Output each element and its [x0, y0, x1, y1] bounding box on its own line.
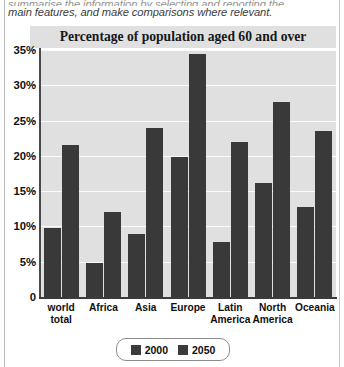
bar-2050 [62, 145, 79, 297]
x-axis-category-label: Oceania [294, 302, 336, 314]
y-axis-tick-mark [31, 156, 36, 157]
x-axis-category-label: Latin America [209, 302, 251, 325]
legend-label: 2050 [192, 344, 215, 356]
chart-bars [40, 50, 336, 297]
bar-group [44, 50, 79, 297]
y-axis-line [39, 48, 41, 299]
legend-item-2000: 2000 [131, 344, 168, 356]
bar-2000 [213, 242, 230, 297]
x-axis-category-label: world total [40, 302, 82, 325]
chart-legend: 2000 2050 [116, 338, 230, 361]
x-axis-category-label: Africa [82, 302, 124, 314]
y-axis-tick-mark [31, 85, 36, 86]
bar-2000 [255, 183, 272, 297]
legend-swatch-icon [178, 345, 188, 355]
x-axis-category-label: North America [251, 302, 293, 325]
bar-2000 [128, 234, 145, 298]
bar-2050 [189, 54, 206, 297]
bar-chart-figure: Percentage of population aged 60 and ove… [6, 24, 338, 364]
bar-group [86, 50, 121, 297]
bar-group [171, 50, 206, 297]
scanned-page: summarise the information by selecting a… [0, 0, 344, 367]
x-axis-category-label: Europe [167, 302, 209, 314]
chart-plot-area [40, 50, 336, 297]
legend-item-2050: 2050 [178, 344, 215, 356]
task-prompt-line-clipped: summarise the information by selecting a… [8, 0, 340, 6]
y-axis-tick-mark [31, 226, 36, 227]
bar-2050 [146, 128, 163, 297]
bar-group [213, 50, 248, 297]
task-prompt-text: summarise the information by selecting a… [8, 0, 340, 20]
bar-2000 [171, 157, 188, 297]
bar-2050 [315, 131, 332, 297]
bar-2050 [273, 102, 290, 297]
bar-2050 [231, 142, 248, 297]
chart-title: Percentage of population aged 60 and ove… [30, 26, 336, 48]
y-axis-tick-label: 0 [2, 292, 36, 302]
y-axis-tick-mark [31, 262, 36, 263]
y-axis-tick-mark [31, 191, 36, 192]
y-axis-tick-mark [31, 50, 36, 51]
bar-group [297, 50, 332, 297]
x-axis-line [39, 297, 337, 299]
legend-swatch-icon [131, 345, 141, 355]
bar-group [128, 50, 163, 297]
x-axis-category-label: Asia [125, 302, 167, 314]
bar-2050 [104, 212, 121, 297]
bar-2000 [297, 207, 314, 297]
page-right-margin-rule [339, 0, 340, 367]
task-prompt-line-visible: main features, and make comparisons wher… [8, 6, 272, 18]
y-axis-tick-labels: 35%30%25%20%15%10%5%0 [2, 24, 36, 324]
bar-2000 [86, 263, 103, 297]
bar-2000 [44, 228, 61, 297]
legend-label: 2000 [145, 344, 168, 356]
y-axis-tick-mark [31, 121, 36, 122]
bar-group [255, 50, 290, 297]
